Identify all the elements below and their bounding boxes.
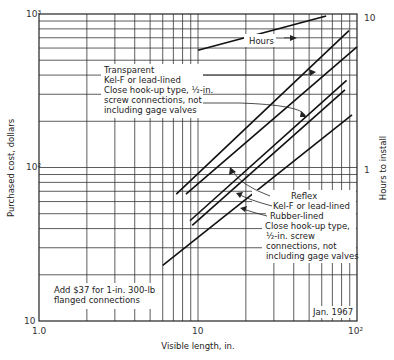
x-tick-1: 1.0 <box>32 326 47 336</box>
svg-text:Kel-F or lead-lined: Kel-F or lead-lined <box>104 75 181 85</box>
x-tick-100: 10² <box>348 326 363 336</box>
svg-text:Reflex: Reflex <box>291 191 317 201</box>
reflex-annotation: Reflex Kel-F or lead-lined Rubber-lined … <box>265 191 359 261</box>
y-tick-10: 10 <box>24 316 36 326</box>
chart: 10³ 10² 10 1.0 10 10² 10 1 Visible lengt… <box>0 0 394 360</box>
svg-text:flanged connections: flanged connections <box>54 295 141 305</box>
svg-text:Transparent: Transparent <box>103 65 155 75</box>
svg-text:including gage valves: including gage valves <box>104 105 197 115</box>
svg-text:screw connections, not: screw connections, not <box>104 95 203 105</box>
series-line-1 <box>186 47 357 194</box>
svg-text:connections, not: connections, not <box>266 241 337 251</box>
y2-tick-10: 10 <box>364 13 376 23</box>
hours-label: Hours <box>249 36 274 46</box>
grid <box>39 14 357 321</box>
svg-text:Close hook-up type,: Close hook-up type, <box>265 221 350 231</box>
y-axis-label: Purchased cost, dollars <box>6 118 16 217</box>
svg-text:Rubber-lined: Rubber-lined <box>270 211 324 221</box>
svg-text:Close hook-up type, ½-in.: Close hook-up type, ½-in. <box>104 85 213 95</box>
y-tick-100: 10² <box>26 162 41 172</box>
svg-text:½-in. screw: ½-in. screw <box>266 231 315 241</box>
y-tick-1000: 10³ <box>26 9 41 19</box>
svg-text:including gage valves: including gage valves <box>266 251 359 261</box>
x-tick-10: 10 <box>192 326 204 336</box>
y2-axis-label: Hours to install <box>378 136 388 200</box>
y2-tick-1: 1 <box>364 165 370 175</box>
x-axis-label: Visible length, in. <box>161 341 234 351</box>
svg-text:Add $37 for 1-in. 300-lb: Add $37 for 1-in. 300-lb <box>54 285 155 295</box>
date-label: Jan. 1967 <box>312 307 353 317</box>
svg-text:Kel-F or lead-lined: Kel-F or lead-lined <box>273 201 350 211</box>
